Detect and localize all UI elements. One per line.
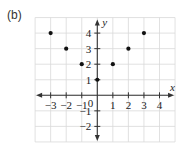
data-point bbox=[64, 47, 68, 51]
data-point bbox=[80, 62, 84, 66]
x-tick-label: −3 bbox=[45, 99, 57, 111]
data-point bbox=[49, 31, 53, 35]
x-tick-label: −2 bbox=[60, 99, 72, 111]
y-tick-label: 1 bbox=[86, 74, 92, 86]
scatter-chart: xy−3−2−112344321−1−20 bbox=[0, 0, 180, 147]
x-axis-left-arrow-icon bbox=[36, 93, 42, 98]
x-tick-label: 3 bbox=[141, 99, 147, 111]
x-tick-label: 2 bbox=[126, 99, 132, 111]
y-tick-label: 3 bbox=[86, 43, 92, 55]
axes bbox=[36, 20, 174, 141]
grid-lines bbox=[35, 18, 175, 142]
x-tick-label: 1 bbox=[110, 99, 116, 111]
y-tick-label: 2 bbox=[86, 58, 92, 70]
y-tick-label: −2 bbox=[80, 120, 92, 132]
x-axis-right-arrow-icon bbox=[168, 93, 174, 98]
data-point bbox=[95, 78, 99, 82]
y-tick-label: 4 bbox=[86, 27, 92, 39]
y-axis-up-arrow-icon bbox=[95, 20, 100, 26]
x-tick-label: 4 bbox=[157, 99, 163, 111]
data-point bbox=[126, 47, 130, 51]
data-point bbox=[142, 31, 146, 35]
origin-label: 0 bbox=[88, 97, 94, 109]
y-axis-down-arrow-icon bbox=[95, 135, 100, 141]
y-axis-label: y bbox=[101, 16, 107, 28]
x-axis-label: x bbox=[169, 81, 175, 93]
data-point bbox=[111, 62, 115, 66]
